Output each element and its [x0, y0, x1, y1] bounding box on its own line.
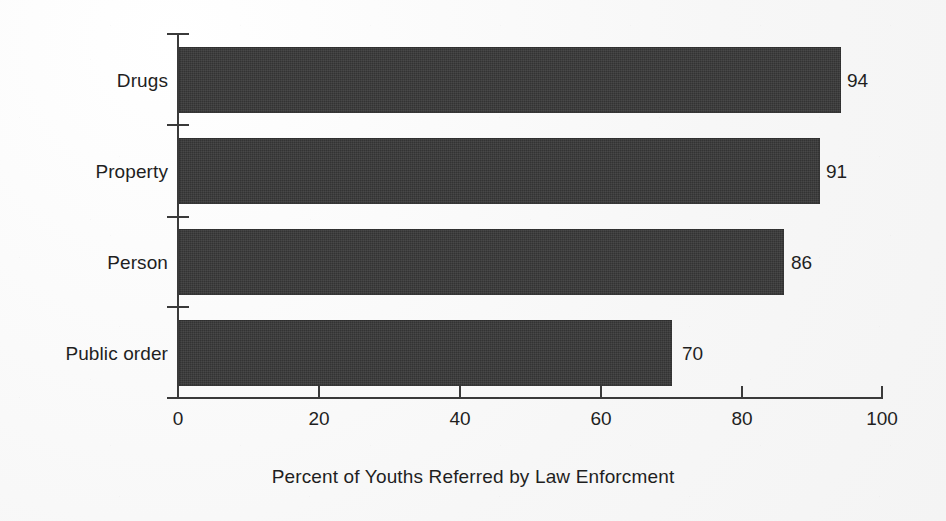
bar-property — [179, 138, 820, 204]
x-axis-label-0: 0 — [148, 408, 208, 430]
bar-chart-figure: Drugs Property Person Public order 94 91… — [0, 0, 946, 521]
x-axis-tick-100 — [881, 386, 883, 398]
x-axis-tick-80 — [741, 386, 743, 398]
x-axis-line — [178, 397, 883, 399]
x-axis-tick-20 — [318, 386, 320, 398]
y-axis-tick-2 — [167, 216, 189, 218]
bar-person — [179, 229, 784, 295]
value-label-drugs: 94 — [847, 71, 868, 90]
x-axis-label-60: 60 — [571, 408, 631, 430]
x-axis-tick-40 — [459, 386, 461, 398]
x-axis-label-100: 100 — [852, 408, 912, 430]
bar-drugs — [179, 47, 841, 113]
bar-public-order — [179, 320, 672, 386]
category-label-public-order: Public order — [65, 344, 168, 363]
value-label-public-order: 70 — [682, 344, 703, 363]
y-axis-tick-1 — [167, 124, 189, 126]
y-axis-tick-3 — [167, 306, 189, 308]
x-axis-label-40: 40 — [430, 408, 490, 430]
x-axis-label-80: 80 — [712, 408, 772, 430]
x-axis-title: Percent of Youths Referred by Law Enforc… — [0, 466, 946, 488]
x-axis-tick-0 — [177, 386, 179, 398]
x-axis-tick-60 — [600, 386, 602, 398]
category-label-property: Property — [95, 162, 168, 181]
category-label-person: Person — [107, 253, 168, 272]
value-label-person: 86 — [791, 253, 812, 272]
y-axis-tick-top — [167, 33, 189, 35]
category-label-drugs: Drugs — [117, 71, 168, 90]
value-label-property: 91 — [826, 162, 847, 181]
x-axis-label-20: 20 — [289, 408, 349, 430]
